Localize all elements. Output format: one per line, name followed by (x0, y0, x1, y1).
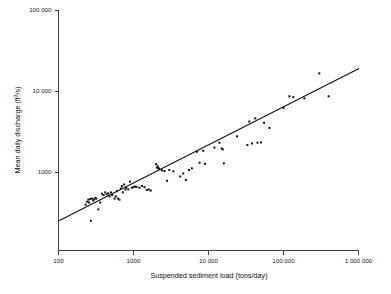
data-point (288, 95, 290, 97)
data-point (127, 188, 129, 190)
y-axis-title-base: Mean daily discharge (ft (13, 97, 22, 173)
data-point (196, 151, 198, 153)
data-point (254, 117, 256, 119)
data-point (218, 142, 220, 144)
data-point (185, 179, 187, 181)
data-point (248, 121, 250, 123)
data-point (90, 220, 92, 222)
data-point (85, 204, 87, 206)
data-point (88, 202, 90, 204)
data-point (157, 165, 159, 167)
data-point (120, 188, 122, 190)
data-point (328, 95, 330, 97)
data-point (164, 170, 166, 172)
data-point (191, 167, 193, 169)
data-point (107, 192, 109, 194)
data-point (116, 190, 118, 192)
y-tick-label: 100 000 (29, 6, 52, 13)
data-point (121, 185, 123, 187)
data-point (122, 191, 124, 193)
data-point (283, 107, 285, 109)
data-point (222, 148, 224, 150)
data-point (318, 72, 320, 74)
data-point (199, 162, 201, 164)
x-axis-title: Suspended sediment load (tons/day) (150, 271, 267, 280)
data-point (256, 142, 258, 144)
data-point (89, 198, 91, 200)
data-point (114, 198, 116, 200)
data-point (129, 181, 131, 183)
data-point (223, 162, 225, 164)
data-point (179, 176, 181, 178)
data-point (136, 186, 138, 188)
data-point (182, 172, 184, 174)
data-point (141, 185, 143, 187)
data-point (158, 168, 160, 170)
data-point (155, 163, 157, 165)
data-point (111, 194, 113, 196)
data-point (161, 169, 163, 171)
chart-figure: 100010 000100 000 100100010 000100 0001 … (0, 0, 391, 294)
data-point (246, 144, 248, 146)
data-point (123, 184, 125, 186)
data-point (115, 195, 117, 197)
x-tick-label: 100 (53, 257, 64, 264)
data-point (202, 150, 204, 152)
data-point (97, 208, 99, 210)
data-point (204, 163, 206, 165)
data-point (150, 190, 152, 192)
x-tick-label: 1000 (127, 257, 141, 264)
data-point (303, 97, 305, 99)
y-axis-title-tail: /s) (13, 86, 22, 94)
data-point (148, 188, 150, 190)
data-point (213, 147, 215, 149)
data-point (260, 141, 262, 143)
data-point (292, 96, 294, 98)
data-point (104, 191, 106, 193)
data-point (143, 186, 145, 188)
data-point (166, 180, 168, 182)
y-axis-title: Mean daily discharge (ft3/s) (13, 86, 22, 173)
x-tick-label: 1 000 000 (345, 257, 373, 264)
x-tick-label: 10 000 (199, 257, 218, 264)
data-point (146, 189, 148, 191)
data-point (103, 194, 105, 196)
data-point (109, 195, 111, 197)
data-point (168, 169, 170, 171)
data-point (263, 122, 265, 124)
data-point (87, 199, 89, 201)
scatter-plot: 100010 000100 000 100100010 000100 0001 … (0, 0, 391, 294)
data-point (138, 187, 140, 189)
y-tick-label: 10 000 (33, 87, 52, 94)
data-point (95, 198, 97, 200)
data-point (172, 170, 174, 172)
data-point (86, 201, 88, 203)
data-point (110, 191, 112, 193)
data-point (118, 199, 120, 201)
data-point (268, 127, 270, 129)
data-point (251, 142, 253, 144)
data-point (91, 198, 93, 200)
data-point (188, 169, 190, 171)
x-tick-label: 100 000 (272, 257, 295, 264)
y-tick-label: 1000 (38, 168, 52, 175)
data-point (125, 187, 127, 189)
data-point (236, 135, 238, 137)
data-point (99, 202, 101, 204)
